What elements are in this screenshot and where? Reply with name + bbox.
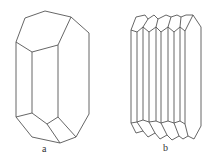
crystal-a-outline: [16, 11, 89, 143]
crystal-b-edge: [168, 17, 171, 27]
crystal-b-edge: [143, 19, 148, 27]
crystal-b-edge: [156, 19, 158, 27]
crystal-b-label: b: [163, 142, 168, 153]
crystal-b-bottom-inner: [131, 120, 188, 136]
crystal-a-edge: [47, 124, 60, 143]
crystal-b-edge: [137, 122, 143, 131]
crystal-a: [16, 11, 89, 143]
crystal-a-top-face: [16, 17, 71, 52]
crystal-b-edge: [174, 123, 179, 136]
crystal-b-top-inner: [131, 15, 193, 32]
crystal-b-edge: [161, 123, 167, 135]
crystal-b-edge: [149, 122, 155, 133]
crystal-a-label: a: [42, 143, 46, 154]
crystal-a-bottom-face: [16, 113, 58, 124]
crystal-a-edge: [58, 117, 76, 137]
crystal-b-edge: [180, 17, 181, 27]
crystal-figure: [0, 0, 211, 160]
crystal-b: [131, 15, 201, 140]
